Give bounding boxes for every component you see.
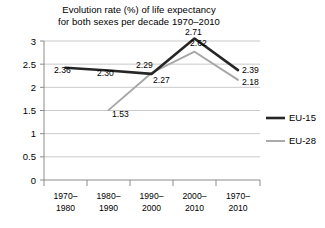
data-label-eu28-1: 1.53	[112, 109, 129, 119]
data-label-eu15-0: 2.36	[54, 65, 71, 75]
chart-svg: 3 2.5 2 1.5 1 0.5 0 1970– 1980 1980– 199…	[0, 0, 325, 228]
y-tick-label-2: 2	[31, 82, 36, 93]
x-tick-label-2-bottom: 2000	[142, 203, 161, 213]
legend-label-eu28: EU-28	[289, 135, 316, 146]
data-labels-eu15: 2.36 2.30 2.27 2.71 2.39	[54, 27, 259, 85]
legend-label-eu15: EU-15	[289, 112, 316, 123]
series-line-eu28	[109, 52, 239, 110]
y-axis-labels: 3 2.5 2 1.5 1 0.5 0	[23, 36, 36, 186]
data-label-eu28-3: 2.62	[190, 38, 207, 48]
y-tick-label-3: 3	[31, 36, 36, 47]
x-tick-label-0-top: 1970–	[54, 191, 78, 201]
gridlines	[44, 41, 260, 157]
x-tick-label-2-top: 1990–	[140, 191, 164, 201]
data-label-eu15-2: 2.27	[153, 75, 170, 85]
x-tick-label-3-top: 2000–	[183, 191, 207, 201]
chart-legend: EU-15 EU-28	[266, 112, 316, 146]
y-tick-label-1.5: 1.5	[23, 105, 36, 116]
x-tick-label-1-top: 1980–	[97, 191, 121, 201]
data-label-eu28-4: 2.18	[242, 77, 259, 87]
data-label-eu15-4: 2.39	[242, 65, 259, 75]
y-tick-marks	[40, 41, 44, 180]
data-label-eu15-3: 2.71	[185, 27, 202, 37]
y-tick-label-0.5: 0.5	[23, 151, 36, 162]
x-tick-label-4-top: 1970–	[226, 191, 250, 201]
data-label-eu28-2: 2.29	[136, 60, 153, 70]
x-tick-label-0-bottom: 1980	[56, 203, 75, 213]
chart-container: Evolution rate (%) of life expectancy fo…	[0, 0, 325, 228]
data-label-eu15-1: 2.30	[97, 68, 114, 78]
x-tick-label-4-bottom: 2010	[228, 203, 247, 213]
x-axis-labels: 1970– 1980 1980– 1990 1990– 2000 2000– 2…	[54, 191, 251, 213]
x-tick-label-1-bottom: 1990	[99, 203, 118, 213]
y-tick-label-1: 1	[31, 128, 36, 139]
x-tick-marks	[44, 180, 260, 186]
y-tick-label-2.5: 2.5	[23, 59, 36, 70]
y-tick-label-0: 0	[31, 175, 36, 186]
x-tick-label-3-bottom: 2010	[185, 203, 204, 213]
